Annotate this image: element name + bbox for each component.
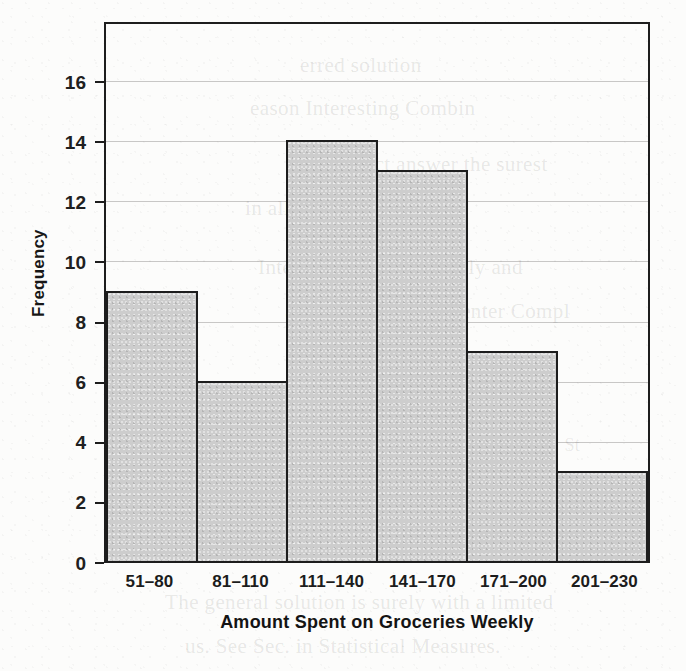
histogram-figure: Frequency 0246810121416 51–8081–110111–1… — [0, 0, 686, 671]
y-axis-tick-mark — [95, 382, 104, 384]
histogram-bar — [466, 351, 558, 561]
y-axis-tick-label: 8 — [75, 313, 95, 332]
y-axis-ticks: 0246810121416 — [0, 0, 104, 671]
y-axis-tick-mark — [95, 442, 104, 444]
histogram-bar — [106, 291, 198, 562]
y-axis-tick-label: 10 — [65, 252, 95, 271]
y-axis-tick-mark — [95, 141, 104, 143]
y-axis-tick-mark — [95, 502, 104, 504]
x-axis-tick-label: 141–170 — [377, 572, 468, 592]
scanned-textbook-page: erred solution eason Interesting Combin … — [0, 0, 686, 671]
y-axis-tick-mark — [95, 322, 104, 324]
x-axis-tick-label: 51–80 — [104, 572, 195, 592]
histogram-bar — [196, 381, 288, 561]
histogram-bar — [556, 471, 648, 561]
x-axis-tick-labels: 51–8081–110111–140141–170171–200201–230 — [104, 572, 650, 592]
x-axis-tick-label: 201–230 — [559, 572, 650, 592]
y-axis-tick-label: 14 — [65, 132, 95, 151]
x-axis-title: Amount Spent on Groceries Weekly — [104, 612, 650, 633]
y-axis-tick-label: 12 — [65, 192, 95, 211]
x-axis-tick-label: 81–110 — [195, 572, 286, 592]
y-axis-tick-label: 6 — [75, 373, 95, 392]
y-axis-tick-label: 0 — [75, 553, 95, 572]
histogram-bar — [286, 140, 378, 561]
plot-area — [104, 22, 650, 563]
y-axis-tick-label: 16 — [65, 72, 95, 91]
y-axis-tick-label: 2 — [75, 493, 95, 512]
bars-layer — [106, 24, 648, 561]
y-axis-title: Frequency — [29, 177, 49, 317]
histogram-bar — [376, 170, 468, 561]
x-axis-tick-label: 111–140 — [286, 572, 377, 592]
y-axis-tick-label: 4 — [75, 433, 95, 452]
y-axis-tick-mark — [95, 562, 104, 564]
x-axis-tick-label: 171–200 — [468, 572, 559, 592]
y-axis-tick-mark — [95, 261, 104, 263]
y-axis-tick-mark — [95, 201, 104, 203]
y-axis-tick-mark — [95, 81, 104, 83]
